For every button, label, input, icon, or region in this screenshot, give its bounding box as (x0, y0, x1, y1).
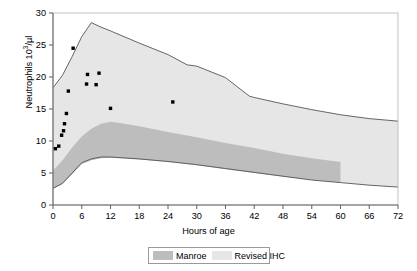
x-axis-tick-label: 0 (50, 211, 55, 221)
y-axis-label-exponent: 3 (22, 46, 29, 50)
y-axis-label: Neutrophils 103/µl (22, 0, 34, 147)
x-axis-tick-label: 36 (220, 211, 230, 221)
x-axis-tick-label: 66 (364, 211, 374, 221)
scatter-point (65, 112, 68, 115)
scatter-point (60, 134, 63, 137)
x-axis-tick-label: 42 (249, 211, 259, 221)
x-axis-tick-label: 72 (393, 211, 403, 221)
y-axis-tick-label: 15 (36, 104, 46, 114)
x-axis-tick-label: 60 (335, 211, 345, 221)
y-axis-tick-label: 0 (41, 200, 46, 210)
y-axis-tick-label: 20 (36, 72, 46, 82)
legend-item-revised-ihc: Revised IHC (212, 251, 286, 261)
scatter-point (62, 129, 65, 132)
y-axis-tick-label: 5 (41, 168, 46, 178)
legend-label-revised-ihc: Revised IHC (235, 251, 286, 261)
x-axis-label: Hours of age (0, 226, 417, 236)
neutrophil-reference-range-chart: 051015202530061218243036424854606672 Neu… (0, 0, 417, 271)
scatter-point (94, 83, 97, 86)
bands-layer (53, 23, 398, 189)
chart-legend: Manroe Revised IHC (148, 247, 270, 264)
legend-swatch-revised-ihc (212, 251, 232, 260)
scatter-point (54, 147, 57, 150)
y-axis-tick-label: 30 (36, 8, 46, 18)
legend-label-manroe: Manroe (176, 251, 207, 261)
y-axis-tick-label: 25 (36, 40, 46, 50)
scatter-point (171, 100, 174, 103)
y-axis-tick-label: 10 (36, 136, 46, 146)
scatter-point (63, 122, 66, 125)
y-axis-label-tail: /µl (24, 36, 34, 46)
scatter-point (109, 107, 112, 110)
x-axis-tick-label: 30 (192, 211, 202, 221)
x-axis-tick-label: 24 (163, 211, 173, 221)
scatter-point (86, 73, 89, 76)
x-axis-tick-label: 18 (134, 211, 144, 221)
scatter-point (97, 71, 100, 74)
legend-swatch-manroe (153, 251, 173, 260)
scatter-point (67, 89, 70, 92)
x-axis-tick-label: 6 (79, 211, 84, 221)
legend-item-manroe: Manroe (153, 251, 207, 261)
scatter-point (57, 144, 60, 147)
x-axis-tick-label: 48 (278, 211, 288, 221)
y-axis-label-base: Neutrophils 10 (24, 49, 34, 108)
scatter-point (71, 47, 74, 50)
x-axis-tick-label: 12 (105, 211, 115, 221)
scatter-point (85, 82, 88, 85)
x-axis-tick-label: 54 (307, 211, 317, 221)
